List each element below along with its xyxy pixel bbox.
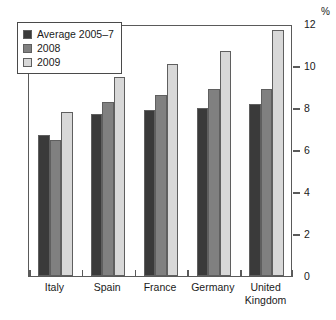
legend-swatch-icon: [23, 44, 32, 53]
x-axis-labels: ItalySpainFranceGermanyUnited Kingdom: [28, 281, 292, 319]
x-axis-tick-mark: [240, 270, 242, 277]
bar: [91, 114, 103, 276]
x-axis-category-label: United Kingdom: [245, 281, 286, 307]
legend-label: 2009: [37, 56, 60, 68]
bar: [208, 89, 220, 276]
y-axis-tick-label: 10: [304, 60, 324, 72]
y-axis-unit-label: %: [321, 6, 330, 17]
x-axis-category-label: Italy: [45, 281, 64, 294]
x-axis-tick-mark: [135, 270, 137, 277]
legend-label: 2008: [37, 42, 60, 54]
y-axis-tick-mark: [293, 66, 300, 68]
bar: [144, 110, 156, 276]
x-axis-tick-mark: [187, 270, 189, 277]
y-axis-tick-mark: [293, 192, 300, 194]
y-axis-tick-label: 6: [304, 144, 324, 156]
legend-swatch-icon: [23, 30, 32, 39]
y-axis-tick-label: 4: [304, 186, 324, 198]
x-axis-category-label: Germany: [191, 281, 234, 294]
legend-item: Average 2005–7: [23, 27, 114, 41]
y-axis-tick-label: 2: [304, 228, 324, 240]
y-axis-tick-label: 8: [304, 102, 324, 114]
y-axis-tick-mark: [293, 150, 300, 152]
x-axis-tick-mark: [82, 270, 84, 277]
bar: [167, 64, 179, 276]
y-axis-tick-label: 12: [304, 18, 324, 30]
x-axis-category-label: Spain: [94, 281, 121, 294]
legend-item: 2009: [23, 55, 114, 69]
y-axis-tick-mark: [293, 108, 300, 110]
y-axis-tick-label: 0: [304, 270, 324, 282]
x-axis-tick-mark: [292, 270, 294, 277]
legend-swatch-icon: [23, 58, 32, 67]
bar: [61, 112, 73, 276]
bar: [102, 102, 114, 276]
bar-chart: % 024681012 ItalySpainFranceGermanyUnite…: [0, 0, 336, 320]
bar: [38, 135, 50, 276]
legend-label: Average 2005–7: [37, 28, 114, 40]
bar: [155, 95, 167, 276]
y-axis-tick-mark: [293, 234, 300, 236]
bar: [220, 51, 232, 276]
bar: [249, 104, 261, 276]
bar: [50, 140, 62, 277]
bar: [272, 30, 284, 276]
x-axis-category-label: France: [144, 281, 177, 294]
bar: [261, 89, 273, 276]
bar: [197, 108, 209, 276]
bar: [114, 77, 126, 277]
chart-legend: Average 2005–720082009: [17, 22, 122, 74]
x-axis-tick-mark: [29, 270, 31, 277]
legend-item: 2008: [23, 41, 114, 55]
